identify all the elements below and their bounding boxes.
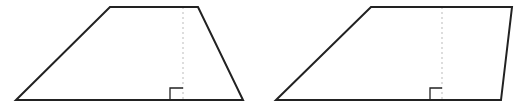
right-angle-marker-icon [430,88,442,100]
diagram-canvas [0,0,521,110]
trapezoid-2 [276,7,512,100]
right-angle-marker-icon [170,88,183,100]
trapezoid-1 [16,7,243,100]
trapezoid-outline [16,7,243,100]
trapezoid-outline [276,7,512,100]
